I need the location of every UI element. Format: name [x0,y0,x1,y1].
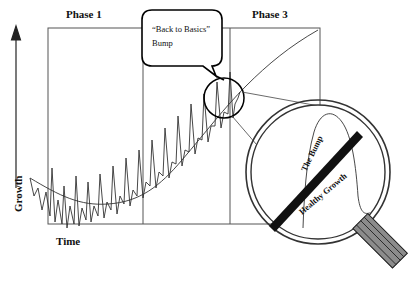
oscillation-curve [30,72,240,228]
y-axis-arrow [12,26,21,188]
phase-label-3: Phase 3 [252,8,288,20]
diagram-svg: “Back to Basics” Bump Phase 1 Phase 3 Gr… [0,0,412,285]
figure-canvas: “Back to Basics” Bump Phase 1 Phase 3 Gr… [0,0,412,285]
magnifying-glass-icon[interactable]: The Bump Healthy Growth [246,100,407,268]
callout-line-1: “Back to Basics” [152,24,210,34]
callout-line-2: Bump [152,38,173,48]
magnifier-handle [353,214,407,268]
y-axis-label: Growth [12,176,24,212]
callout-bubble[interactable]: “Back to Basics” Bump [142,10,224,80]
phase-label-1: Phase 1 [66,8,102,20]
x-axis-label: Time [56,235,80,247]
